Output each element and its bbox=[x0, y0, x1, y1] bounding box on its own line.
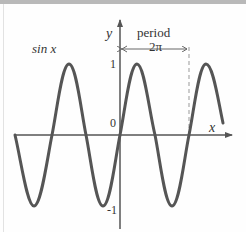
period-label: period bbox=[137, 25, 171, 40]
y-axis-label: y bbox=[104, 26, 113, 41]
function-label: sin x bbox=[32, 41, 56, 56]
period-value: 2π bbox=[149, 39, 163, 54]
x-axis-label: x bbox=[208, 120, 216, 135]
sine-diagram: sin x y x period 2π 1 0 -1 bbox=[0, 0, 246, 232]
origin-label: 0 bbox=[110, 116, 116, 130]
diagram-frame: sin x y x period 2π 1 0 -1 bbox=[0, 0, 246, 232]
y-tick-neg1: -1 bbox=[107, 203, 117, 217]
y-tick-1: 1 bbox=[110, 57, 116, 71]
